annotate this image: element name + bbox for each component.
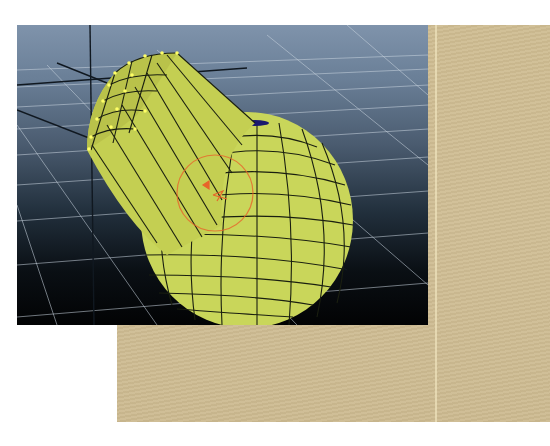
page-fold-line (435, 25, 437, 422)
cropped-header-text (0, 0, 550, 6)
3d-viewport[interactable] (17, 25, 428, 325)
viewport-scene (17, 25, 428, 325)
